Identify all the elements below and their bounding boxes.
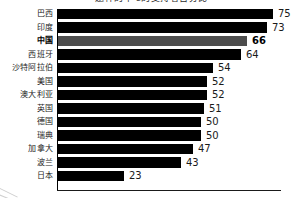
table-row: 英国51 — [0, 102, 303, 116]
table-row: 印度73 — [0, 21, 303, 35]
category-label: 巴西 — [37, 7, 53, 21]
bar-value-label: 66 — [252, 34, 266, 48]
bar-value-label: 52 — [212, 88, 225, 102]
table-row: 波兰43 — [0, 156, 303, 170]
bar — [58, 63, 213, 74]
bar-value-label: 54 — [218, 61, 231, 75]
plot-area: 巴西75印度73中国66西班牙64沙特阿拉伯54美国52澳大利亚52英国51德国… — [0, 7, 303, 194]
bar-value-label: 43 — [186, 156, 199, 170]
bar — [58, 76, 207, 87]
category-label: 德国 — [37, 115, 53, 129]
bar-value-label: 50 — [206, 115, 219, 129]
bar-value-label: 51 — [209, 102, 222, 116]
bar-track: 52 — [58, 88, 303, 102]
bar-track: 66 — [58, 34, 303, 48]
bar-value-label: 75 — [278, 7, 291, 21]
bar — [58, 144, 193, 155]
table-row: 西班牙64 — [0, 48, 303, 62]
bar-value-label: 73 — [272, 21, 285, 35]
table-row: 中国66 — [0, 34, 303, 48]
bar-value-label: 64 — [246, 48, 259, 62]
bar-value-label: 47 — [198, 142, 211, 156]
bar-track: 73 — [58, 21, 303, 35]
bar-value-label: 50 — [206, 129, 219, 143]
bar — [58, 22, 267, 33]
chart-title: 题件的下's的支持者百分比 — [0, 0, 303, 4]
category-label: 澳大利亚 — [20, 88, 53, 102]
bar — [58, 49, 241, 60]
bar-rows: 巴西75印度73中国66西班牙64沙特阿拉伯54美国52澳大利亚52英国51德国… — [0, 7, 303, 192]
bar — [58, 130, 201, 141]
bar-track: 23 — [58, 169, 303, 183]
bar — [58, 157, 181, 168]
bar — [58, 90, 207, 101]
table-row: 美国52 — [0, 75, 303, 89]
category-label: 瑞典 — [37, 129, 53, 143]
bar-track: 50 — [58, 115, 303, 129]
table-row: 加拿大47 — [0, 142, 303, 156]
bar-track: 51 — [58, 102, 303, 116]
category-label: 印度 — [37, 21, 53, 35]
category-label: 美国 — [37, 75, 53, 89]
bar-track: 47 — [58, 142, 303, 156]
category-label: 加拿大 — [28, 142, 53, 156]
table-row: 沙特阿拉伯54 — [0, 61, 303, 75]
bar — [58, 36, 247, 47]
bar — [58, 9, 273, 20]
bar-track: 54 — [58, 61, 303, 75]
bar-value-label: 52 — [212, 75, 225, 89]
category-label: 沙特阿拉伯 — [12, 61, 53, 75]
bar — [58, 117, 201, 128]
category-label: 日本 — [37, 169, 53, 183]
bar-track: 64 — [58, 48, 303, 62]
category-label: 英国 — [37, 102, 53, 116]
table-row: 日本23 — [0, 169, 303, 183]
category-label: 波兰 — [37, 156, 53, 170]
bar-track: 52 — [58, 75, 303, 89]
bar-chart: 题件的下's的支持者百分比 巴西75印度73中国66西班牙64沙特阿拉伯54美国… — [0, 0, 303, 198]
table-row: 澳大利亚52 — [0, 88, 303, 102]
category-label: 西班牙 — [28, 48, 53, 62]
bar — [58, 171, 124, 182]
bar — [58, 103, 204, 114]
bar-value-label: 23 — [129, 169, 142, 183]
bar-track: 50 — [58, 129, 303, 143]
table-row: 瑞典50 — [0, 129, 303, 143]
table-row: 巴西75 — [0, 7, 303, 21]
bar-track: 75 — [58, 7, 303, 21]
bar-track: 43 — [58, 156, 303, 170]
category-label: 中国 — [37, 34, 53, 48]
table-row: 德国50 — [0, 115, 303, 129]
